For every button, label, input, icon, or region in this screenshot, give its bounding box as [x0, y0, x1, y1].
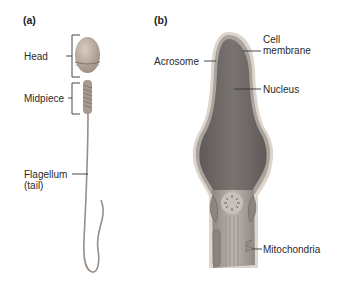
midpiece-bracket [72, 83, 80, 114]
panel-b-label: (b) [154, 14, 167, 26]
midpiece-label: Midpiece [24, 93, 64, 104]
mitochondria-label: Mitochondria [263, 244, 320, 255]
head-label: Head [24, 51, 48, 62]
cell-membrane-label: Cell [263, 34, 280, 45]
cell-membrane-label-2: membrane [263, 45, 311, 56]
flagellum-shape [84, 112, 103, 272]
flagellum-label: Flagellum [24, 169, 67, 180]
head-cross-section-illustration [193, 32, 273, 268]
flagellum-label-tail: (tail) [24, 180, 43, 191]
whole-sperm-illustration [75, 37, 103, 272]
panel-a-label: (a) [23, 14, 36, 26]
acrosome-label: Acrosome [154, 56, 199, 67]
head-shape [75, 37, 100, 73]
nucleus-label: Nucleus [263, 84, 299, 95]
